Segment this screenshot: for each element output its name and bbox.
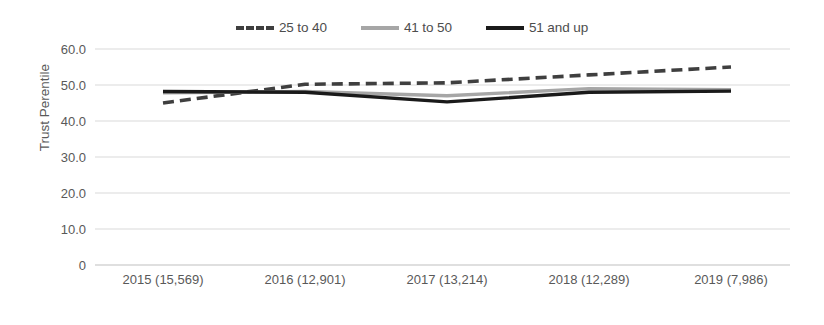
x-tick-label: 2018 (12,289): [509, 272, 669, 287]
legend-item-51-and-up[interactable]: 51 and up: [486, 20, 588, 35]
y-tick-label: 0: [26, 258, 86, 273]
legend-swatch-gray-icon: [361, 26, 399, 30]
y-tick-label: 40.0: [26, 114, 86, 129]
legend-label-25-to-40: 25 to 40: [279, 20, 327, 35]
chart-legend: 25 to 40 41 to 50 51 and up: [0, 20, 824, 35]
plot-area: [95, 49, 790, 265]
y-tick-label: 10.0: [26, 222, 86, 237]
y-tick-label: 20.0: [26, 186, 86, 201]
x-tick-label: 2016 (12,901): [225, 272, 385, 287]
x-tick-label: 2017 (13,214): [367, 272, 527, 287]
legend-label-51-and-up: 51 and up: [529, 20, 588, 35]
y-tick-label: 60.0: [26, 42, 86, 57]
legend-label-41-to-50: 41 to 50: [404, 20, 452, 35]
y-tick-label: 50.0: [26, 78, 86, 93]
x-tick-label: 2019 (7,986): [651, 272, 811, 287]
legend-swatch-dashed-icon: [236, 26, 274, 30]
y-tick-label: 30.0: [26, 150, 86, 165]
legend-swatch-black-icon: [486, 26, 524, 30]
x-tick-label: 2015 (15,569): [83, 272, 243, 287]
plot-svg: [95, 49, 790, 265]
legend-item-41-to-50[interactable]: 41 to 50: [361, 20, 452, 35]
trust-percentile-line-chart: 25 to 40 41 to 50 51 and up Trust Perent…: [0, 0, 824, 325]
legend-item-25-to-40[interactable]: 25 to 40: [236, 20, 327, 35]
